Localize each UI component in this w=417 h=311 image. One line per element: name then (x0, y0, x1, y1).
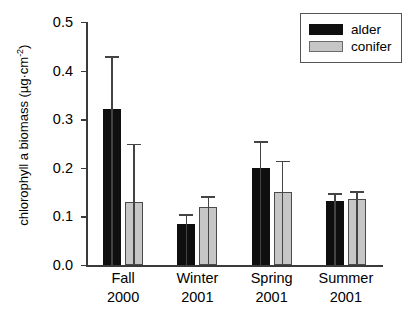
chart-container: chlorophyll a biomass (µg·cm-2) 0.00.10.… (0, 0, 417, 311)
y-axis-label-exponent: -2 (15, 49, 25, 57)
x-tick-season: Summer (309, 269, 383, 288)
error-cap-alder-3 (328, 193, 342, 195)
error-cap-alder-2 (254, 141, 268, 143)
legend-swatch-alder (309, 24, 343, 35)
legend-item-conifer: conifer (309, 39, 392, 54)
y-tick-label: 0.1 (53, 208, 73, 224)
y-tick-0.4: 0.4 (81, 71, 86, 72)
x-axis-line (86, 265, 383, 267)
x-tick-season: Fall (86, 269, 160, 288)
y-axis-label-text: chlorophyll a biomass (µg·cm (16, 57, 31, 226)
legend-swatch-conifer (309, 41, 343, 52)
y-tick-label: 0.5 (53, 14, 73, 30)
x-tick-label-3: Summer2001 (309, 269, 383, 307)
error-cap-alder-1 (179, 214, 193, 216)
x-tick-year: 2001 (235, 288, 309, 307)
y-tick-0.5: 0.5 (81, 22, 86, 23)
y-tick-0.1: 0.1 (81, 216, 86, 217)
x-tick-label-1: Winter2001 (160, 269, 234, 307)
error-cap-conifer-0 (127, 144, 141, 146)
y-tick-0.0: 0.0 (81, 265, 86, 266)
legend-label-alder: alder (351, 22, 381, 37)
x-tick-label-0: Fall2000 (86, 269, 160, 307)
legend-item-alder: alder (309, 22, 392, 37)
error-bar-conifer-0 (133, 144, 135, 266)
y-tick-label: 0.0 (53, 257, 73, 273)
error-cap-conifer-1 (201, 196, 215, 198)
x-tick-year: 2000 (86, 288, 160, 307)
error-bar-alder-0 (111, 56, 113, 265)
chart-legend: alder conifer (300, 13, 402, 63)
x-tick-season: Winter (160, 269, 234, 288)
error-bar-alder-1 (186, 214, 188, 265)
y-tick-label: 0.2 (53, 160, 73, 176)
y-tick-0.3: 0.3 (81, 119, 86, 120)
y-tick-0.2: 0.2 (81, 168, 86, 169)
y-tick-label: 0.4 (53, 63, 73, 79)
error-bar-conifer-3 (356, 191, 358, 265)
x-tick-year: 2001 (160, 288, 234, 307)
y-axis-label: chlorophyll a biomass (µg·cm-2) (15, 10, 31, 260)
error-bar-alder-3 (334, 193, 336, 265)
error-bar-conifer-1 (208, 196, 210, 265)
x-tick-year: 2001 (309, 288, 383, 307)
y-axis-label-tail: ) (16, 45, 31, 49)
legend-label-conifer: conifer (351, 39, 392, 54)
y-axis-line (86, 22, 88, 265)
error-cap-alder-0 (105, 56, 119, 58)
error-cap-conifer-3 (350, 191, 364, 193)
x-tick-season: Spring (235, 269, 309, 288)
error-bar-conifer-2 (282, 161, 284, 265)
y-tick-label: 0.3 (53, 111, 73, 127)
x-tick-label-2: Spring2001 (235, 269, 309, 307)
error-cap-conifer-2 (276, 161, 290, 163)
error-bar-alder-2 (260, 141, 262, 265)
